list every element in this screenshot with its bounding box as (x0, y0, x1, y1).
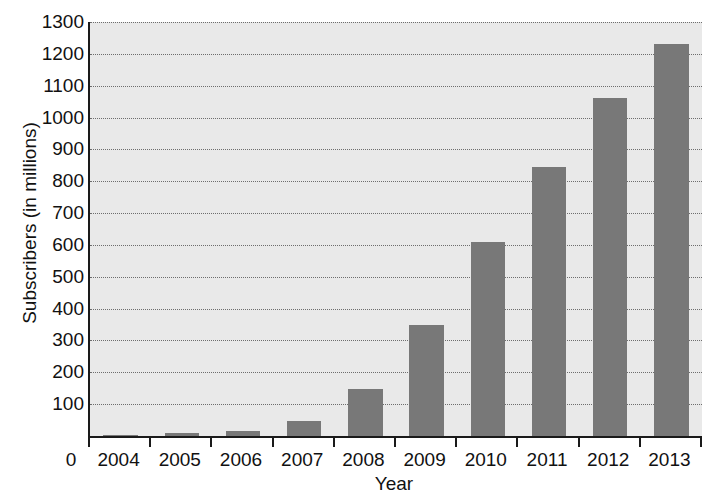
y-axis-tick-label: 900 (32, 139, 84, 158)
bar[interactable] (532, 167, 566, 436)
bar-series (90, 22, 702, 436)
x-axis-tick (394, 438, 396, 447)
x-axis-tick (88, 438, 90, 447)
x-axis-tick-label: 2009 (394, 447, 455, 473)
x-axis-tick-label: 2010 (455, 447, 516, 473)
x-axis-tick-label: 2013 (639, 447, 700, 473)
y-axis-tick-label: 200 (32, 362, 84, 381)
bar[interactable] (471, 242, 505, 436)
y-axis-tick-label: 700 (32, 203, 84, 222)
x-axis-tick-label: 2006 (210, 447, 271, 473)
y-axis-tick-label: 1200 (32, 44, 84, 63)
x-axis-tick (455, 438, 457, 447)
x-axis-tick (639, 438, 641, 447)
y-axis-tick-label: 500 (32, 267, 84, 286)
bar-slot (212, 22, 273, 436)
x-axis-tick-label: 2007 (272, 447, 333, 473)
bar[interactable] (409, 325, 443, 436)
x-axis-tick-label: 2008 (333, 447, 394, 473)
x-axis-tick-label: 2004 (88, 447, 149, 473)
y-axis-tick-label: 1100 (32, 76, 84, 95)
y-axis-tick-label: 600 (32, 235, 84, 254)
x-axis-tick (272, 438, 274, 447)
x-axis-tick-label: 2011 (516, 447, 577, 473)
bar[interactable] (226, 431, 260, 436)
x-axis-tick (333, 438, 335, 447)
bar[interactable] (103, 435, 137, 436)
x-axis-tick-labels: 2004200520062007200820092010201120122013 (88, 447, 700, 473)
x-axis-tick (578, 438, 580, 447)
bar[interactable] (287, 421, 321, 436)
x-axis-tick (516, 438, 518, 447)
x-axis-tick-label: 2005 (149, 447, 210, 473)
bar[interactable] (654, 44, 688, 436)
bar-slot (518, 22, 579, 436)
x-axis-tick (149, 438, 151, 447)
bar-slot (90, 22, 151, 436)
x-axis-tick (210, 438, 212, 447)
bar-slot (641, 22, 702, 436)
y-axis-tick-label: 1300 (32, 12, 84, 31)
x-axis-tick-label: 2012 (578, 447, 639, 473)
bar[interactable] (348, 389, 382, 436)
bar[interactable] (593, 98, 627, 436)
y-axis-tick-label: 1000 (32, 108, 84, 127)
plot-area (88, 22, 702, 438)
bar-slot (457, 22, 518, 436)
bar-slot (274, 22, 335, 436)
y-axis-tick-labels: 1300120011001000900800700600500400300200… (28, 0, 84, 501)
x-axis-tick-marks (88, 438, 700, 447)
bar-slot (580, 22, 641, 436)
bar-chart: Subscribers (in millions) 13001200110010… (0, 0, 709, 501)
bar-slot (335, 22, 396, 436)
x-axis-origin-label: 0 (58, 447, 84, 473)
x-axis-title: Year (88, 473, 700, 495)
bar-slot (396, 22, 457, 436)
x-axis-tick (700, 438, 702, 447)
y-axis-tick-label: 400 (32, 299, 84, 318)
y-axis-tick-label: 100 (32, 394, 84, 413)
y-axis-tick-label: 800 (32, 171, 84, 190)
y-axis-tick-label: 300 (32, 330, 84, 349)
bar[interactable] (165, 433, 199, 436)
bar-slot (151, 22, 212, 436)
